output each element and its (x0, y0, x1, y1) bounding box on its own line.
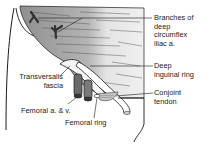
anatomy-figure: Branches of deep circumflex iliac a. Dee… (0, 0, 210, 149)
label-branches-circumflex-iliac: Branches of deep circumflex iliac a. (154, 14, 193, 48)
label-femoral-artery-vein: Femoral a. & v. (21, 107, 71, 116)
body-wall-outline (6, 8, 14, 130)
label-femoral-ring: Femoral ring (65, 119, 106, 128)
label-deep-inguinal-ring: Deep inguinal ring (154, 62, 194, 79)
label-transversalis-fascia: Transversalis fascia (5, 73, 63, 90)
label-conjoint-tendon: Conjoint tendon (154, 89, 181, 106)
femoral-ring (94, 94, 100, 97)
